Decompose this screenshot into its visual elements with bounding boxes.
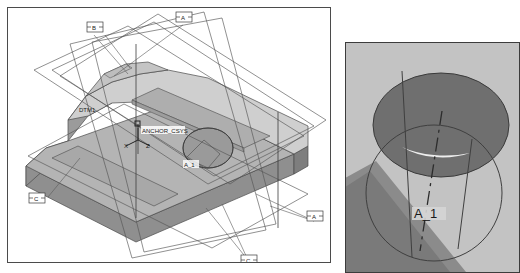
callout-a-right[interactable]: A bbox=[307, 211, 323, 221]
callout-a-right-label: A bbox=[312, 214, 316, 220]
csys-axis-z-label: Z bbox=[146, 143, 150, 149]
callout-c-bottom[interactable]: C bbox=[241, 255, 257, 262]
hole-axis-label: A_1 bbox=[184, 162, 195, 168]
zoomed-detail-viewport[interactable]: A_1 bbox=[345, 42, 520, 273]
main-3d-viewport[interactable]: DTM1 ANCHOR_CSYS X Z A_1 B A bbox=[7, 7, 331, 263]
solid-model bbox=[26, 62, 308, 242]
main-3d-scene: DTM1 ANCHOR_CSYS X Z A_1 B A bbox=[8, 8, 330, 262]
callout-c-left-label: C bbox=[34, 196, 39, 202]
callout-a-top-right[interactable]: A bbox=[176, 12, 192, 22]
zoomed-detail-scene: A_1 bbox=[346, 43, 519, 272]
callout-b-label: B bbox=[92, 25, 96, 31]
datum-plane-label: DTM1 bbox=[79, 107, 96, 113]
callout-c-bottom-label: C bbox=[246, 258, 251, 262]
csys-axis-x-label: X bbox=[124, 143, 128, 149]
detail-hole-axis-label: A_1 bbox=[414, 206, 437, 221]
callout-c-left[interactable]: C bbox=[29, 193, 45, 203]
csys-label: ANCHOR_CSYS bbox=[142, 128, 188, 134]
callout-b-top-left[interactable]: B bbox=[87, 22, 103, 32]
callout-a-label: A bbox=[181, 15, 185, 21]
screenshot-stage: DTM1 ANCHOR_CSYS X Z A_1 B A bbox=[0, 0, 520, 273]
